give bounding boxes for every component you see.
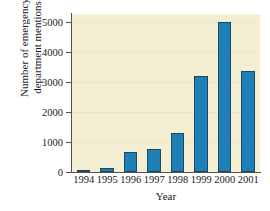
bar-2001 [241,71,255,172]
x-axis-tick-labels: 19941995199619971998199920002001 [72,174,260,188]
y-axis-tick [66,172,72,173]
y-axis-tick-label: 2000 [42,106,63,117]
y-axis-tick-label: 3000 [42,76,63,87]
bar-1996 [124,152,138,172]
y-axis-title-line-2: department mentions [30,0,43,123]
y-axis-tick [66,142,72,143]
y-axis-tick-label: 4000 [42,46,63,57]
x-axis-title: Year [72,190,260,202]
bar-1998 [171,133,185,172]
bar-1997 [147,149,161,172]
bar-series [72,14,260,172]
y-axis-tick [66,112,72,113]
y-axis-tick [66,82,72,83]
y-axis-tick-label: 5000 [42,16,63,27]
bar-2000 [218,22,232,172]
y-axis-tick-label: 1000 [42,136,63,147]
y-axis-title: Number of emergency department mentions [18,0,43,123]
x-axis-tick-label: 1995 [97,174,118,185]
y-axis-title-line-1: Number of emergency [18,0,31,123]
x-axis-tick-label: 1996 [120,174,141,185]
bar-1999 [194,76,208,172]
x-axis-tick-label: 2001 [238,174,259,185]
x-axis-tick-label: 1994 [73,174,94,185]
bar-1995 [100,168,114,173]
x-axis-tick-label: 2000 [214,174,235,185]
y-axis-tick-label: 0 [58,167,63,178]
bar-chart-figure: Number of emergency department mentions … [0,0,270,211]
y-axis-tick [66,52,72,53]
bar-1994 [77,170,91,172]
x-axis-tick-label: 1999 [191,174,212,185]
y-axis-tick [66,22,72,23]
x-axis-tick-label: 1997 [144,174,165,185]
x-axis-tick-label: 1998 [167,174,188,185]
